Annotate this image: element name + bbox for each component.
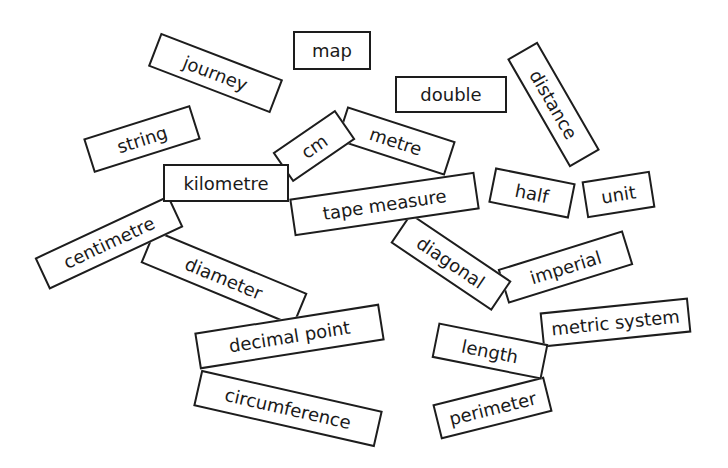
- card-label: map: [312, 40, 352, 61]
- card-label: unit: [600, 181, 638, 207]
- word-card-imperial[interactable]: imperial: [498, 230, 634, 303]
- word-card-map[interactable]: map: [293, 31, 371, 70]
- card-label: distance: [525, 66, 581, 143]
- card-label: perimeter: [447, 387, 538, 429]
- word-card-perimeter[interactable]: perimeter: [432, 377, 552, 440]
- card-label: half: [513, 179, 550, 206]
- word-card-diameter[interactable]: diameter: [140, 230, 307, 327]
- word-card-kilometre[interactable]: kilometre: [163, 164, 289, 202]
- card-label: cm: [297, 130, 332, 163]
- card-label: double: [420, 84, 481, 105]
- card-label: tape measure: [321, 185, 448, 224]
- word-card-diagonal[interactable]: diagonal: [390, 213, 511, 311]
- word-card-string[interactable]: string: [83, 105, 201, 173]
- word-card-metric-system[interactable]: metric system: [540, 298, 692, 348]
- word-card-double[interactable]: double: [395, 76, 507, 113]
- card-label: kilometre: [183, 173, 268, 194]
- word-card-sheet: journey map string double distance metre…: [0, 0, 728, 468]
- word-card-tape-measure[interactable]: tape measure: [289, 172, 480, 237]
- word-card-journey[interactable]: journey: [148, 33, 283, 114]
- card-label: string: [114, 121, 170, 157]
- card-label: diameter: [182, 253, 265, 304]
- word-card-distance[interactable]: distance: [507, 42, 600, 168]
- word-card-unit[interactable]: unit: [582, 171, 656, 218]
- card-label: imperial: [527, 246, 603, 288]
- word-card-half[interactable]: half: [488, 167, 575, 218]
- card-label: circumference: [223, 384, 353, 433]
- word-card-circumference[interactable]: circumference: [193, 370, 383, 447]
- card-label: journey: [180, 51, 251, 95]
- card-label: decimal point: [227, 317, 351, 357]
- card-label: length: [460, 335, 520, 367]
- card-label: metric system: [550, 306, 680, 340]
- card-label: metre: [367, 123, 425, 160]
- word-card-metre[interactable]: metre: [336, 106, 456, 175]
- card-label: diagonal: [413, 232, 489, 293]
- word-card-length[interactable]: length: [432, 322, 549, 379]
